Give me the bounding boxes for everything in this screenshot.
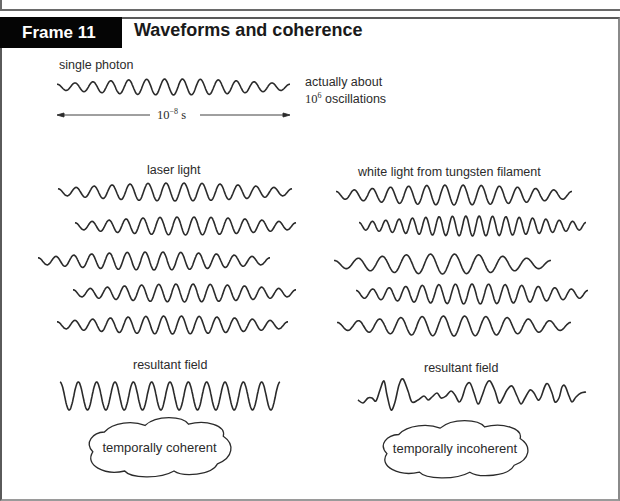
single-photon-wave [57, 79, 290, 95]
laser-wave-5 [57, 316, 288, 334]
laser-wave-4 [73, 284, 296, 302]
incoherent-cloud-label: temporally incoherent [381, 441, 529, 456]
laser-resultant-wave [60, 382, 280, 410]
duration-arrow [57, 113, 290, 117]
waveform-canvas [0, 0, 620, 501]
white-wave-2 [359, 216, 586, 236]
laser-wave-3 [38, 252, 270, 270]
white-resultant-wave [358, 379, 586, 410]
arrow-right-head-icon [283, 113, 290, 117]
white-wave-1 [336, 185, 572, 205]
laser-wave-1 [58, 183, 292, 201]
white-wave-5 [337, 316, 571, 336]
white-wave-3 [334, 254, 551, 274]
laser-wave-2 [75, 217, 296, 235]
white-wave-4 [356, 284, 588, 304]
arrow-left-head-icon [57, 113, 64, 117]
coherent-cloud-label: temporally coherent [87, 440, 232, 455]
